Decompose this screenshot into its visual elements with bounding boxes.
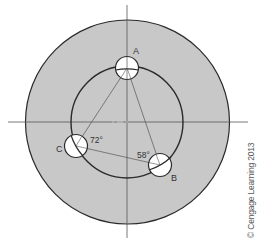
copyright-notice: © Cengage Learning 2013	[246, 143, 256, 238]
angle-label-c: 72°	[90, 135, 103, 145]
hole-b	[149, 154, 172, 177]
hole-a	[116, 57, 139, 80]
hole-c	[65, 135, 88, 158]
label-b: B	[171, 173, 177, 183]
label-c: C	[56, 144, 63, 154]
bolt-circle-diagram: A B C 72° 58°	[0, 0, 266, 249]
label-a: A	[133, 46, 139, 56]
angle-label-b: 58°	[137, 150, 150, 160]
